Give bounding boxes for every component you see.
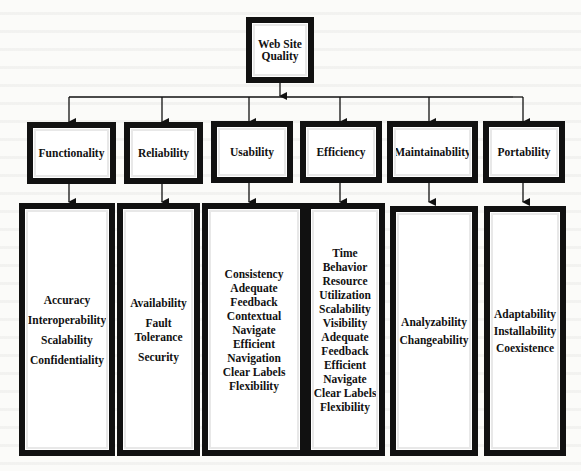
category-reliability: Reliability: [124, 122, 203, 184]
criterion-item: Adequate: [230, 281, 277, 295]
category-functionality: Functionality: [27, 122, 116, 184]
category-usability: Usability: [211, 121, 293, 183]
subcriteria-efficiency: Time Behavior Resource Utilization Scala…: [305, 203, 385, 456]
criterion-item: Coexistence: [496, 341, 554, 355]
criterion-item: Interoperability: [28, 313, 106, 327]
criterion-item: Clear Labels: [223, 365, 286, 379]
criterion-item: Navigate: [232, 323, 275, 337]
subcriteria-maintainability: Analyzability Changeability: [390, 206, 478, 456]
criterion-item: Contextual: [227, 309, 281, 323]
criterion-item: Installability: [494, 324, 557, 338]
criterion-item: Availability: [130, 296, 187, 310]
subcriteria-functionality: Accuracy Interoperability Scalability Co…: [19, 203, 115, 456]
root-node-web-site-quality: Web Site Quality: [246, 17, 314, 83]
category-label: Reliability: [138, 147, 189, 159]
criterion-item: Utilization: [319, 288, 371, 302]
criterion-item: Changeability: [399, 333, 468, 347]
criterion-item: Resource: [322, 274, 367, 288]
criterion-item: Adaptability: [494, 307, 556, 321]
root-label: Web Site Quality: [252, 38, 308, 62]
criterion-item: Flexibility: [320, 400, 370, 414]
subcriteria-usability: Consistency Adequate Feedback Contextual…: [202, 203, 306, 456]
category-maintainability: Maintainability: [387, 121, 478, 183]
criterion-item: Security: [138, 350, 179, 364]
criterion-item: Visibility: [323, 316, 367, 330]
category-label: Efficiency: [316, 146, 365, 158]
criterion-item: Confidentiality: [30, 353, 104, 367]
category-efficiency: Efficiency: [300, 121, 382, 183]
criterion-item: Feedback: [230, 295, 277, 309]
subcriteria-portability: Adaptability Installability Coexistence: [484, 206, 566, 456]
subcriteria-reliability: Availability Fault Tolerance Security: [117, 203, 200, 456]
criterion-item: Efficient: [324, 358, 366, 372]
category-portability: Portability: [483, 121, 565, 183]
category-label: Portability: [497, 146, 550, 158]
criterion-item: Navigate: [323, 372, 366, 386]
category-label: Usability: [230, 146, 274, 158]
criterion-item: Feedback: [321, 344, 368, 358]
criterion-item: Adequate: [321, 330, 368, 344]
criterion-item: Behavior: [323, 260, 368, 274]
criterion-item: Clear Labels: [314, 386, 377, 400]
criterion-item: Flexibility: [229, 379, 279, 393]
criterion-item: Time: [332, 246, 357, 260]
category-label: Maintainability: [394, 146, 471, 158]
category-label: Functionality: [39, 147, 105, 159]
criterion-item: Navigation: [227, 351, 281, 365]
criterion-item: Consistency: [225, 267, 284, 281]
criterion-item: Accuracy: [44, 293, 91, 307]
criterion-item: Fault Tolerance: [134, 316, 184, 344]
criterion-item: Scalability: [319, 302, 371, 316]
criterion-item: Analyzability: [401, 315, 467, 329]
criterion-item: Scalability: [41, 333, 93, 347]
criterion-item: Efficient: [233, 337, 275, 351]
